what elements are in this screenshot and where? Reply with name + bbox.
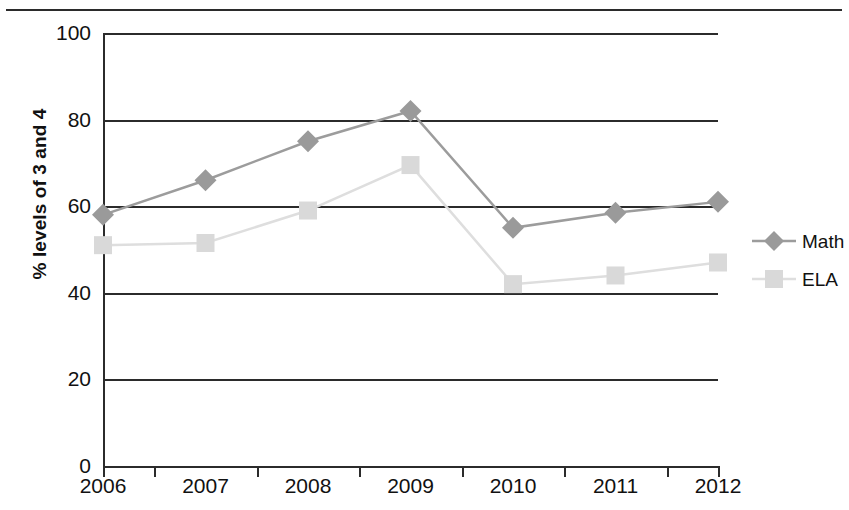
data-point-ela-2012 (709, 253, 727, 271)
legend-item-ela[interactable]: ELA (752, 260, 849, 298)
diamond-marker-icon (752, 230, 796, 252)
legend-label-ela: ELA (802, 269, 838, 291)
chart-legend: MathELA (752, 222, 849, 298)
data-point-math-2008 (297, 130, 319, 152)
data-point-ela-2011 (607, 266, 625, 284)
data-point-math-2011 (605, 202, 627, 224)
series-layer (0, 0, 849, 510)
data-point-math-2007 (195, 169, 217, 191)
data-point-ela-2009 (402, 156, 420, 174)
data-point-ela-2007 (197, 234, 215, 252)
data-point-ela-2008 (299, 202, 317, 220)
legend-label-math: Math (802, 231, 844, 253)
series-ela (94, 156, 727, 293)
legend-item-math[interactable]: Math (752, 222, 849, 260)
data-point-ela-2006 (94, 236, 112, 254)
data-point-ela-2010 (504, 275, 522, 293)
data-point-math-2012 (707, 191, 729, 213)
square-marker-icon (752, 268, 796, 290)
chart-figure: % levels of 3 and 4 020406080100 2006200… (0, 0, 849, 510)
data-point-math-2006 (92, 204, 114, 226)
